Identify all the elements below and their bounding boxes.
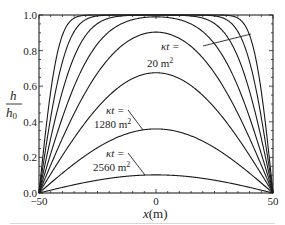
x-axis-label: x(m): [142, 206, 168, 221]
profile-curve-kt-80: [39, 15, 273, 193]
y-tick-label: 0.4: [23, 116, 37, 128]
bottom-divider: [10, 223, 275, 224]
annotation-kt-1280-line2: 1280 m2: [94, 117, 131, 130]
y-tick-label: 0.6: [23, 80, 37, 92]
annotation-kt-20-line1: κt =: [161, 40, 180, 52]
annotation-kt-2560-line1: κt =: [106, 147, 125, 159]
annotation-kt-20-line2: 20 m2: [147, 56, 173, 69]
y-label-denominator: h0: [6, 105, 18, 121]
y-tick-label: 0.8: [23, 45, 37, 57]
y-axis-label: h h0: [6, 88, 22, 121]
x-tick-label: 50: [268, 195, 280, 207]
plot-frame: [39, 15, 273, 193]
profile-curves: [39, 15, 273, 193]
annotation-kt-1280-line1: κt =: [106, 104, 125, 116]
profile-curve-kt-20: [39, 15, 273, 193]
y-label-numerator: h: [10, 88, 17, 103]
profile-curve-kt-160: [39, 17, 273, 193]
axis-ticks: [39, 15, 273, 193]
annotation-kt-2560-line2: 2560 m2: [93, 160, 130, 173]
y-tick-label: 1.0: [23, 9, 37, 21]
profile-curve-kt-40: [39, 15, 273, 193]
annotation-kt-2560-leader: [128, 153, 145, 175]
diffusion-profile-chart: 0.00.20.40.60.81.0−50050 h h0 x(m) κt = …: [0, 0, 285, 225]
x-tick-label: −50: [30, 195, 48, 207]
annotation-kt-1280: κt = 1280 m2: [94, 104, 143, 130]
y-tick-label: 0.2: [23, 151, 37, 163]
annotation-kt-2560: κt = 2560 m2: [93, 147, 145, 175]
